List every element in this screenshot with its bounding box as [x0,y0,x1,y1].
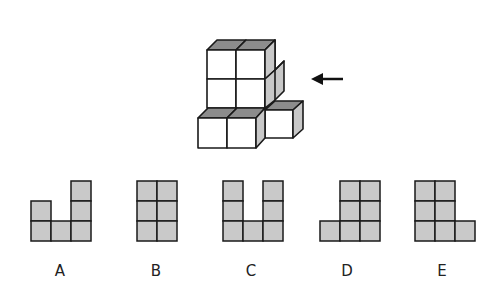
grid-cell [157,181,177,201]
grid-cell [51,221,71,241]
answer-options: ABCDE [31,181,475,280]
grid-cell [137,201,157,221]
grid-cell [340,201,360,221]
grid-cell [415,201,435,221]
cube-stack-figure [198,40,303,148]
grid-cell [263,181,283,201]
grid-cell [263,201,283,221]
grid-cell [157,201,177,221]
option-c[interactable]: C [223,181,283,280]
grid-cell [137,181,157,201]
grid-cell [71,181,91,201]
option-d[interactable]: D [320,181,380,280]
grid-cell [340,181,360,201]
option-b[interactable]: B [137,181,177,280]
grid-cell [243,221,263,241]
option-label: A [55,262,66,280]
option-label: E [437,262,446,280]
grid-cell [435,181,455,201]
grid-cell [435,201,455,221]
grid-cell [31,221,51,241]
grid-cell [263,221,283,241]
grid-cell [415,181,435,201]
arrow-left-icon [311,73,343,85]
grid-cell [320,221,340,241]
option-e[interactable]: E [415,181,475,280]
option-a[interactable]: A [31,181,91,280]
grid-cell [360,221,380,241]
grid-cell [360,201,380,221]
grid-cell [71,201,91,221]
grid-cell [360,181,380,201]
grid-cell [137,221,157,241]
grid-cell [223,221,243,241]
right-low-cube [265,101,303,138]
cube-view-puzzle: ABCDE [0,0,503,295]
grid-cell [435,221,455,241]
grid-cell [455,221,475,241]
grid-cell [223,181,243,201]
grid-cell [71,221,91,241]
grid-cell [415,221,435,241]
option-label: C [246,262,256,280]
bottom-front-row [198,108,265,148]
option-label: B [151,262,161,280]
grid-cell [157,221,177,241]
grid-cell [223,201,243,221]
grid-cell [31,201,51,221]
grid-cell [340,221,360,241]
option-label: D [341,262,353,280]
